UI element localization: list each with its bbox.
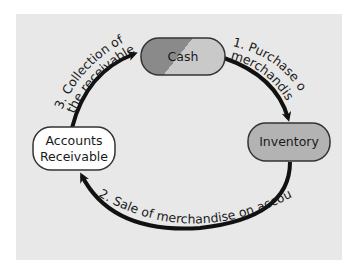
node-accounts-receivable: Accounts Receivable xyxy=(33,127,115,170)
node-inventory-label: Inventory xyxy=(259,134,319,149)
node-cash-label: Cash xyxy=(168,49,199,64)
operating-cycle-diagram: Cash Inventory Accounts Receivable 1. Pu… xyxy=(0,0,358,274)
node-receivable-label-line1: Accounts xyxy=(46,133,103,148)
node-receivable-label-line2: Receivable xyxy=(40,149,108,164)
node-cash: Cash xyxy=(141,38,225,75)
node-inventory: Inventory xyxy=(248,123,330,161)
